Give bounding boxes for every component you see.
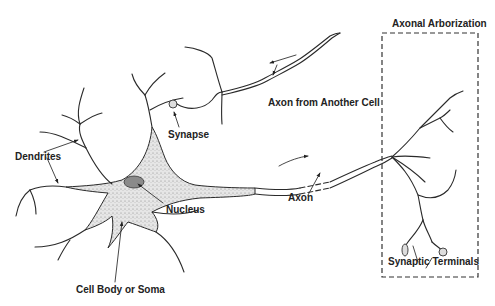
synaptic-terminal-left	[402, 244, 408, 256]
label-synapse: Synapse	[168, 129, 209, 141]
cell-body-shape	[66, 127, 255, 248]
synaptic-terminal-right	[439, 248, 447, 256]
synapse-bulb	[169, 100, 177, 108]
label-axonal-arborization: Axonal Arborization	[392, 18, 487, 30]
label-cell-body: Cell Body or Soma	[76, 284, 165, 296]
label-dendrites: Dendrites	[15, 151, 61, 163]
label-synaptic-terminals: Synaptic Terminals	[388, 256, 479, 268]
label-axon: Axon	[288, 192, 313, 204]
label-axon-from-another-cell: Axon from Another Cell	[268, 97, 380, 109]
axonal-arborization-box	[382, 33, 478, 277]
label-nucleus: Nucleus	[166, 204, 205, 216]
